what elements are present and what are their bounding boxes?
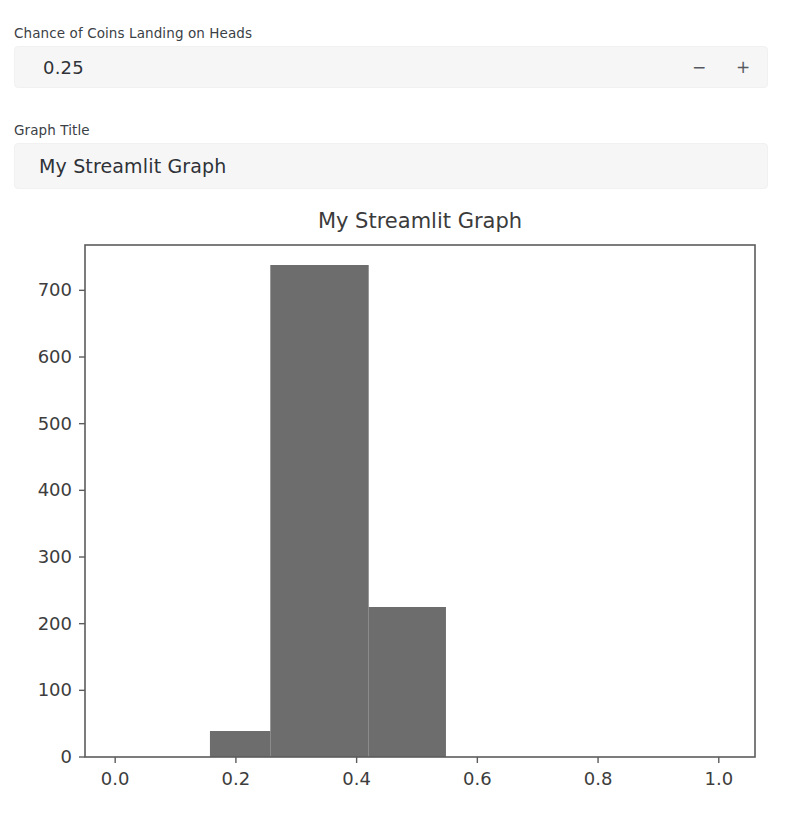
x-tick-label: 0.0 bbox=[101, 768, 130, 789]
x-tick-label: 0.8 bbox=[584, 768, 613, 789]
histogram-bar bbox=[210, 731, 270, 757]
x-tick-labels: 0.00.20.40.60.81.0 bbox=[101, 768, 733, 789]
histogram-chart: My Streamlit Graph 0.00.20.40.60.81.0 01… bbox=[0, 200, 811, 826]
chance-of-heads-widget: Chance of Coins Landing on Heads 0.25 − … bbox=[14, 25, 768, 88]
text-input-label: Graph Title bbox=[14, 122, 768, 138]
y-tick-labels: 0100200300400500600700 bbox=[38, 279, 72, 767]
y-tick-label: 400 bbox=[38, 479, 72, 500]
number-input[interactable]: 0.25 − + bbox=[14, 46, 768, 88]
x-tick-label: 0.2 bbox=[222, 768, 251, 789]
bars-group bbox=[210, 265, 446, 757]
y-tick-label: 200 bbox=[38, 613, 72, 634]
chart-canvas: My Streamlit Graph 0.00.20.40.60.81.0 01… bbox=[0, 200, 811, 826]
decrement-button[interactable]: − bbox=[683, 47, 715, 87]
number-input-value[interactable]: 0.25 bbox=[15, 57, 84, 78]
increment-button[interactable]: + bbox=[727, 47, 759, 87]
y-tick-label: 600 bbox=[38, 346, 72, 367]
chart-title: My Streamlit Graph bbox=[318, 209, 522, 233]
histogram-bar bbox=[369, 607, 446, 757]
x-tick-label: 0.4 bbox=[342, 768, 371, 789]
y-tick-label: 500 bbox=[38, 413, 72, 434]
histogram-bar bbox=[270, 265, 368, 757]
x-tick-label: 1.0 bbox=[704, 768, 733, 789]
y-tick-label: 0 bbox=[61, 746, 72, 767]
x-tick-label: 0.6 bbox=[463, 768, 492, 789]
y-tick-label: 100 bbox=[38, 679, 72, 700]
text-input[interactable]: My Streamlit Graph bbox=[14, 143, 768, 189]
y-tick-label: 700 bbox=[38, 279, 72, 300]
y-tick-label: 300 bbox=[38, 546, 72, 567]
text-input-value[interactable]: My Streamlit Graph bbox=[15, 155, 226, 177]
number-input-label: Chance of Coins Landing on Heads bbox=[14, 25, 768, 41]
graph-title-widget: Graph Title My Streamlit Graph bbox=[14, 122, 768, 189]
